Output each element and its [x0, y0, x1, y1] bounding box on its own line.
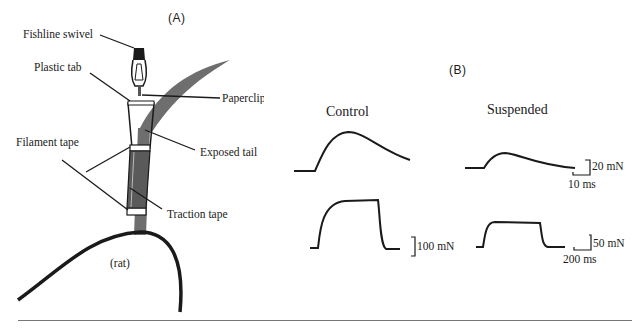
scale-twitch-force: 20 mN: [592, 160, 624, 172]
suspended-twitch-trace: [465, 153, 575, 168]
fishline-swivel-icon: [133, 48, 145, 60]
filament-tape-top: [130, 145, 150, 151]
rat-body-shape: [18, 232, 181, 312]
twitch-scale-bar: [573, 160, 590, 175]
label-control: Control: [326, 104, 369, 120]
label-traction-tape: Traction tape: [167, 208, 228, 220]
label-rat: (rat): [110, 257, 130, 269]
suspended-tetanus-scale-bar: [574, 235, 591, 250]
label-exposed-tail: Exposed tail: [200, 146, 257, 158]
scale-control-tetanus-force: 100 mN: [417, 240, 454, 252]
label-suspended: Suspended: [487, 102, 548, 118]
filament-tape-bottom: [127, 208, 146, 215]
label-fishline-swivel: Fishline swivel: [23, 28, 93, 40]
control-twitch-trace: [294, 132, 410, 171]
label-plastic-tab: Plastic tab: [34, 61, 82, 73]
label-paperclip: Paperclip: [222, 92, 264, 104]
scale-suspended-tetanus-force: 50 mN: [593, 237, 625, 249]
suspended-tetanus-trace: [476, 222, 565, 247]
panel-a-label: (A): [168, 11, 186, 25]
label-filament-tape: Filament tape: [16, 136, 79, 148]
scale-tetanus-time: 200 ms: [563, 253, 597, 265]
scale-twitch-time: 10 ms: [568, 178, 596, 190]
control-tetanus-trace: [310, 200, 400, 249]
panel-b-label: (B): [449, 63, 467, 77]
figure-graphics: [0, 0, 634, 329]
bottom-rule: [18, 320, 632, 321]
control-tetanus-scale-bar: [411, 237, 415, 256]
